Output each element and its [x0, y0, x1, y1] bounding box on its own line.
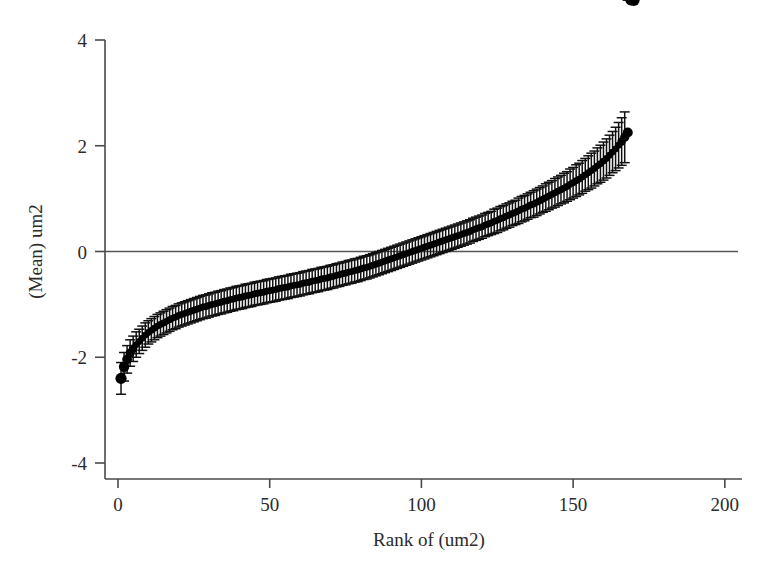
x-tick-label: 100 [407, 494, 436, 515]
y-tick-label: -4 [71, 453, 87, 474]
x-tick-label: 200 [711, 494, 740, 515]
data-point [115, 373, 126, 384]
data-series [115, 0, 639, 394]
x-tick-label: 0 [113, 494, 123, 515]
y-axis-title: (Mean) um2 [25, 204, 47, 298]
data-point [623, 127, 633, 137]
x-tick-label: 150 [559, 494, 588, 515]
y-tick-label: -2 [71, 347, 87, 368]
x-axis-title: Rank of (um2) [373, 529, 485, 551]
y-tick-label: 2 [78, 136, 88, 157]
y-tick-label: 4 [78, 30, 88, 51]
x-tick-label: 50 [260, 494, 279, 515]
y-tick-label: 0 [78, 242, 88, 263]
chart-figure: -4-2024050100150200Rank of (um2)(Mean) u… [0, 0, 782, 562]
chart-canvas: -4-2024050100150200Rank of (um2)(Mean) u… [0, 0, 782, 562]
